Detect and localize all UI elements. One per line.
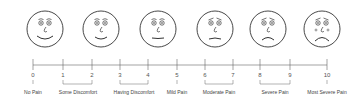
tick-number: 5 — [175, 72, 178, 78]
range-bracket — [260, 80, 290, 84]
tear-icon — [327, 29, 329, 31]
tick-number: 0 — [31, 72, 34, 78]
tick-number: 7 — [231, 72, 234, 78]
having-discomfort-face-icon — [140, 11, 176, 47]
tick-number: 4 — [146, 72, 149, 78]
most-severe-pain-face-icon — [304, 11, 340, 47]
pain-label: Moderate Pain — [203, 89, 236, 95]
tear-icon — [315, 29, 317, 31]
pain-label: Some Discomfort — [59, 89, 97, 95]
pain-label: Severe Pain — [261, 89, 288, 95]
range-bracket — [120, 80, 148, 84]
no-pain-face-icon — [27, 11, 63, 47]
tick-number: 9 — [288, 72, 291, 78]
moderate-pain-face-icon — [197, 11, 233, 47]
tick-number: 3 — [118, 72, 121, 78]
pain-label: Mild Pain — [167, 89, 188, 95]
pain-label: Having Discomfort — [114, 89, 155, 95]
some-discomfort-face-icon — [83, 11, 119, 47]
tick-number: 8 — [258, 72, 261, 78]
tick-number: 10 — [324, 72, 331, 78]
pain-scale: 012345678910 No PainSome DiscomfortHavin… — [0, 0, 364, 105]
pain-label: Most Severe Pain — [307, 89, 346, 95]
tick-number: 6 — [203, 72, 206, 78]
pain-label: No Pain — [24, 89, 42, 95]
severe-pain-face-icon — [250, 11, 286, 47]
range-bracket — [63, 80, 92, 84]
tick-number: 2 — [90, 72, 93, 78]
tick-number: 1 — [61, 72, 64, 78]
range-bracket — [205, 80, 233, 84]
